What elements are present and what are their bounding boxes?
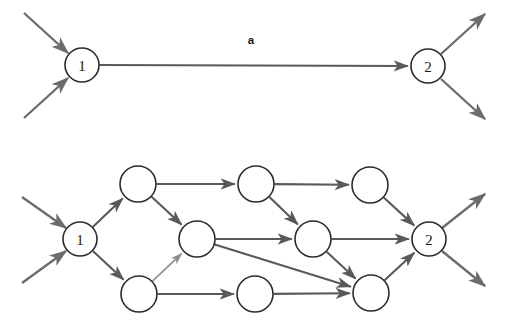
external-incoming-arrow [24,78,68,118]
node-label: 2 [425,232,433,248]
graph-node-unlabeled[interactable] [120,166,156,202]
external-outgoing-arrow [442,251,485,286]
external-incoming-arrow [24,13,68,53]
graph-edge [100,65,408,66]
graph-node-unlabeled[interactable] [179,221,215,257]
graph-edge [152,197,182,225]
graph-node-unlabeled[interactable] [238,166,274,202]
graph-edge [215,245,351,287]
refined-external-out-edges [442,194,485,286]
external-outgoing-arrow [441,79,485,119]
graph-node-unlabeled[interactable] [352,167,388,203]
graph-edge [385,253,415,281]
external-outgoing-arrow [441,14,485,54]
graph-diagram: 12 a 12 [0,0,507,325]
refined-external-in-edges [22,197,66,283]
graph-edge [152,254,181,282]
refined-graph-panel: 12 [22,166,485,312]
external-outgoing-arrow [442,194,485,228]
coarse-external-in-edges [24,13,68,118]
graph-node-unlabeled[interactable] [121,276,157,312]
coarse-edge-labels: a [248,34,255,46]
graph-edge [93,199,123,227]
graph-node-unlabeled[interactable] [295,221,331,257]
node-label: 1 [76,232,84,248]
node-label: 1 [78,58,86,74]
diagram-canvas: 12 a 12 [0,0,507,325]
coarse-graph-panel: 12 a [24,13,485,119]
external-incoming-arrow [22,251,66,283]
edge-label: a [248,34,255,46]
external-incoming-arrow [22,197,66,228]
graph-edge [93,251,124,280]
graph-edge [274,293,350,294]
graph-edge [275,184,349,185]
graph-edge [269,197,297,224]
graph-node-unlabeled[interactable] [353,275,389,311]
node-label: 2 [424,59,432,75]
graph-edge [384,198,414,226]
coarse-external-out-edges [441,14,485,119]
coarse-edges [100,65,408,66]
graph-node-unlabeled[interactable] [237,276,273,312]
graph-edge [327,252,356,279]
